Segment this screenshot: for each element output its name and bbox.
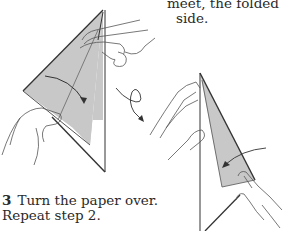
turn-over-arrow: [116, 88, 144, 122]
loop-arrowhead-icon: [138, 115, 144, 122]
step-instruction: 3Turn the paper over. Repeat step 2.: [2, 193, 172, 222]
step-text-2: Repeat step 2.: [2, 208, 172, 223]
step-text-1: Turn the paper over.: [17, 192, 158, 208]
left-top-thumb: [114, 52, 127, 67]
intro-text-line-2: side.: [167, 11, 286, 26]
left-bottom-hand: [2, 108, 61, 165]
step-number: 3: [2, 192, 11, 208]
step-line-1: 3Turn the paper over.: [2, 193, 172, 208]
loop-arrow-icon: [116, 88, 142, 120]
intro-text: meet, the folded side.: [167, 0, 286, 26]
right-paper-lower-edge: [205, 195, 240, 231]
fold-step-left: [2, 10, 155, 172]
right-left-hand: [150, 82, 205, 160]
